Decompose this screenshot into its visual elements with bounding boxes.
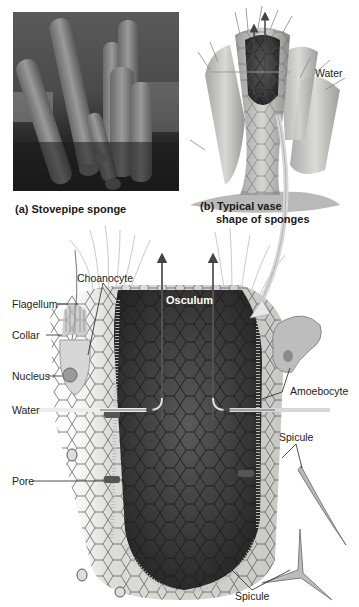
label-water-incurrent: Water [12, 405, 40, 416]
label-nucleus: Nucleus [12, 371, 50, 382]
label-choanocyte: Choanocyte [77, 273, 133, 284]
label-water-vase: Water [315, 68, 343, 79]
label-collar: Collar [12, 330, 39, 341]
panel-b-caption-line2: shape of sponges [216, 213, 310, 226]
label-flagellum: Flagellum [12, 299, 58, 310]
label-amoebocyte: Amoebocyte [290, 386, 348, 397]
label-spicule-lower: Spicule [235, 591, 269, 602]
label-osculum: Osculum [166, 295, 213, 306]
label-spicule-upper: Spicule [279, 432, 313, 443]
label-pore: Pore [12, 476, 34, 487]
vase-sponge [190, 6, 345, 300]
spicule-needle [298, 466, 346, 545]
amoebocyte-cell [273, 316, 322, 373]
panel-b-caption-line1: (b) Typical vase [200, 200, 282, 213]
